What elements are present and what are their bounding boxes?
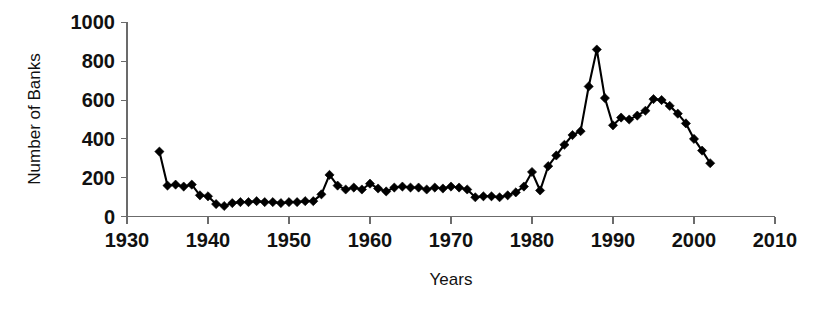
data-point-marker <box>220 201 229 210</box>
data-point-marker <box>422 185 431 194</box>
x-axis-ticks <box>127 217 775 224</box>
data-point-marker <box>244 198 253 207</box>
x-axis: 193019401950196019701980199020002010 <box>105 217 798 251</box>
y-axis-title: Number of Banks <box>25 53 44 184</box>
x-axis-title: Years <box>430 270 473 289</box>
chart-figure: 02004006008001000 1930194019501960197019… <box>0 0 839 318</box>
data-point-marker <box>455 183 464 192</box>
y-tick-label: 800 <box>82 50 115 72</box>
data-point-marker <box>228 198 237 207</box>
y-tick-label: 600 <box>82 89 115 111</box>
data-point-marker <box>163 181 172 190</box>
data-point-marker <box>293 198 302 207</box>
data-series <box>155 45 715 211</box>
data-point-marker <box>495 193 504 202</box>
data-point-marker <box>374 184 383 193</box>
data-point-marker <box>398 182 407 191</box>
x-tick-label: 2000 <box>672 229 717 251</box>
y-axis-tick-labels: 02004006008001000 <box>71 11 116 227</box>
x-tick-label: 1940 <box>186 229 231 251</box>
y-axis: 02004006008001000 <box>71 11 128 227</box>
data-point-marker <box>633 111 642 120</box>
data-point-marker <box>430 183 439 192</box>
data-point-marker <box>171 180 180 189</box>
y-tick-label: 1000 <box>71 11 116 33</box>
data-point-marker <box>155 147 164 156</box>
data-point-marker <box>503 191 512 200</box>
y-axis-ticks <box>121 22 127 216</box>
data-point-marker <box>625 115 634 124</box>
data-point-marker <box>487 192 496 201</box>
line-chart-canvas: 02004006008001000 1930194019501960197019… <box>0 0 839 318</box>
data-point-marker <box>276 198 285 207</box>
x-tick-label: 1950 <box>267 229 312 251</box>
x-tick-label: 1990 <box>591 229 636 251</box>
x-tick-label: 1960 <box>348 229 393 251</box>
y-tick-label: 400 <box>82 128 115 150</box>
data-point-marker <box>576 127 585 136</box>
data-point-marker <box>592 45 601 54</box>
data-point-marker <box>438 184 447 193</box>
y-tick-label: 0 <box>104 206 115 228</box>
data-point-marker <box>252 197 261 206</box>
data-point-marker <box>527 167 536 176</box>
x-axis-tick-labels: 193019401950196019701980199020002010 <box>105 229 798 251</box>
data-point-marker <box>414 183 423 192</box>
data-point-marker <box>268 198 277 207</box>
data-point-marker <box>600 94 609 103</box>
data-point-marker <box>349 183 358 192</box>
data-point-marker <box>446 182 455 191</box>
x-tick-label: 1970 <box>429 229 474 251</box>
data-point-marker <box>584 82 593 91</box>
x-tick-label: 1980 <box>510 229 555 251</box>
x-tick-label: 2010 <box>753 229 798 251</box>
x-tick-label: 1930 <box>105 229 150 251</box>
data-point-marker <box>179 182 188 191</box>
data-point-marker <box>536 186 545 195</box>
data-point-marker <box>390 183 399 192</box>
y-tick-label: 200 <box>82 167 115 189</box>
data-point-marker <box>382 187 391 196</box>
series-markers <box>155 45 715 211</box>
data-point-marker <box>341 185 350 194</box>
